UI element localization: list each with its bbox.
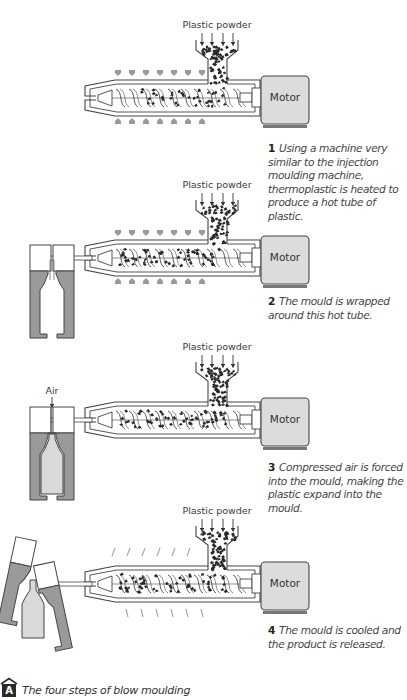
pellet xyxy=(224,542,228,545)
pellet xyxy=(220,228,224,231)
heat-arrow-up-icon xyxy=(185,118,191,124)
pellet xyxy=(220,48,224,51)
pellet xyxy=(186,251,190,254)
heat-arrow-up-icon xyxy=(157,118,163,124)
pellet xyxy=(205,374,208,378)
pellet xyxy=(150,260,154,263)
pellet xyxy=(201,211,204,215)
pellet xyxy=(178,576,182,580)
mould-open xyxy=(0,537,72,652)
heat-arrow-down-icon xyxy=(143,230,149,236)
pellet xyxy=(211,104,214,108)
mould-cavity-right xyxy=(56,271,74,338)
pellet xyxy=(209,576,212,579)
motor-base xyxy=(263,285,307,288)
pellet xyxy=(218,81,221,84)
pellet xyxy=(161,424,164,428)
pellet xyxy=(165,582,169,585)
pellet xyxy=(218,218,222,222)
pellet xyxy=(178,89,181,93)
pellet xyxy=(225,45,229,49)
mould-half-right-top xyxy=(53,407,74,433)
pellet xyxy=(175,582,179,585)
pellet xyxy=(207,104,210,107)
heat-arrow-down-icon xyxy=(115,230,121,236)
pellet xyxy=(214,91,217,94)
shaft-bearing xyxy=(252,410,261,429)
mould-cavity-left xyxy=(30,271,48,338)
plastic-powder-label: Plastic powder xyxy=(182,341,251,352)
heat-arrow-up-icon xyxy=(115,118,121,124)
figure-title: The four steps of blow moulding xyxy=(22,684,190,697)
cooling-line-icon xyxy=(186,609,188,617)
nozzle xyxy=(98,90,112,106)
figure-badge: A xyxy=(2,684,16,697)
step-1-number: 1 xyxy=(268,142,275,154)
pellet xyxy=(167,417,170,420)
pellet xyxy=(202,206,205,209)
motor-label: Motor xyxy=(270,577,301,589)
pellet xyxy=(222,222,225,225)
pellet xyxy=(190,418,194,421)
figure-caption: A The four steps of blow moulding xyxy=(2,682,190,698)
pellet xyxy=(225,233,228,236)
step-4-caption: 4The mould is cooled and the product is … xyxy=(268,624,407,651)
pellet xyxy=(213,367,217,371)
heat-arrow-down-icon xyxy=(199,70,205,76)
air-label: Air xyxy=(45,385,58,396)
figure-badge-letter: A xyxy=(5,685,13,696)
pellet xyxy=(194,103,197,107)
heat-arrow-up-icon xyxy=(143,278,149,284)
pellet xyxy=(152,92,156,96)
pellet xyxy=(124,409,128,412)
pellet xyxy=(209,82,213,85)
blow-moulding-diagram: Plastic powderMotorPlastic powderMotorPl… xyxy=(0,0,407,700)
pellet xyxy=(220,205,224,208)
pellet xyxy=(125,579,128,582)
pellet xyxy=(220,588,224,591)
plastic-powder-label: Plastic powder xyxy=(182,179,251,190)
pellet xyxy=(225,77,229,80)
mould-half-left-top xyxy=(30,407,51,433)
pellet xyxy=(220,208,224,211)
heat-arrow-down-icon xyxy=(143,70,149,76)
pellet xyxy=(170,93,173,96)
cooling-line-icon xyxy=(127,548,130,556)
pellet xyxy=(121,251,125,254)
pellet xyxy=(220,391,224,394)
pellet xyxy=(221,403,225,406)
pellet xyxy=(180,263,183,267)
motor-base xyxy=(263,447,307,450)
nozzle xyxy=(98,576,112,592)
pellet xyxy=(140,91,144,94)
heat-arrow-down-icon xyxy=(185,230,191,236)
motor-base xyxy=(263,611,307,614)
pellet xyxy=(190,414,193,417)
mould-half-left-top xyxy=(30,245,51,271)
cooling-line-icon xyxy=(201,609,203,617)
cooling-line-icon xyxy=(142,548,145,556)
cooling-line-icon xyxy=(126,609,128,617)
shaft-coupling xyxy=(240,579,252,588)
mould-half-right-top xyxy=(53,245,74,271)
pellet xyxy=(217,248,221,252)
pellet xyxy=(221,225,224,228)
heat-arrow-down-icon xyxy=(129,230,135,236)
pellet xyxy=(226,223,230,226)
heat-arrow-down-icon xyxy=(157,70,163,76)
pellet xyxy=(155,260,159,264)
step-4-caption-text: The mould is cooled and the product is r… xyxy=(268,624,401,650)
shaft-bearing xyxy=(252,574,261,593)
step-4-number: 4 xyxy=(268,624,275,636)
pellet xyxy=(193,97,196,101)
pellet xyxy=(177,590,180,594)
pellet xyxy=(131,576,135,579)
pellet xyxy=(198,100,202,103)
pellet xyxy=(220,211,224,214)
pellet xyxy=(217,403,221,407)
pellet xyxy=(202,537,206,541)
step-2-caption: 2The mould is wrapped around this hot tu… xyxy=(268,295,407,322)
pellet xyxy=(215,538,218,541)
heat-arrow-up-icon xyxy=(115,278,121,284)
shaft-coupling xyxy=(240,415,252,424)
